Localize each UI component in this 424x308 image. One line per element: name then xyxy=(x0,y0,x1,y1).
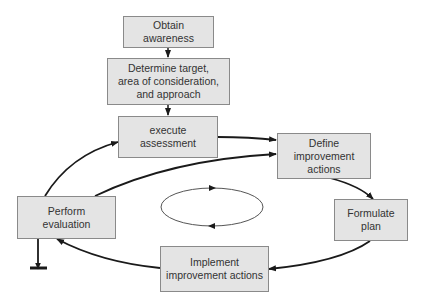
node-determine-target: Determine target, area of consideration,… xyxy=(107,58,230,105)
arrow-define-to-formulate xyxy=(330,178,373,199)
node-execute-assessment: execute assessment xyxy=(118,116,218,158)
node-formulate-plan: Formulate plan xyxy=(334,199,408,241)
node-implement-improvement-actions: Implement improvement actions xyxy=(160,246,269,292)
arrow-implement-to-evaluate xyxy=(57,239,160,268)
node-define-improvement-actions: Define improvement actions xyxy=(277,133,371,179)
arrow-evaluate-to-execute xyxy=(45,142,118,196)
node-perform-evaluation: Perform evaluation xyxy=(17,196,116,239)
node-obtain-awareness: Obtain awareness xyxy=(123,16,214,48)
cycle-ellipse-icon xyxy=(161,185,263,229)
arrow-execute-to-define xyxy=(217,137,276,140)
arrow-evaluate-to-define xyxy=(95,154,276,196)
terminator-symbol xyxy=(30,238,47,268)
arrow-formulate-to-implement xyxy=(269,241,370,269)
